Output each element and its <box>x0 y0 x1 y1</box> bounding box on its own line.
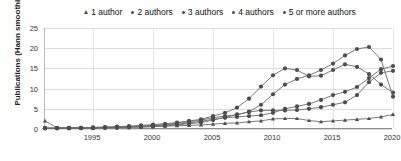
data-point-circle <box>55 126 59 130</box>
y-tick-label: 20 <box>22 44 38 53</box>
data-point-circle <box>391 69 395 73</box>
data-point-circle <box>331 103 335 107</box>
data-point-circle <box>43 126 47 130</box>
data-point-circle <box>331 61 335 65</box>
legend-item-2[interactable]: 3 authors <box>182 8 223 17</box>
legend-item-4[interactable]: 5 or more authors <box>283 8 356 17</box>
y-tick-label: 0 <box>22 125 38 134</box>
data-point-circle <box>331 93 335 97</box>
data-point-circle <box>223 115 227 119</box>
data-point-circle <box>355 47 359 51</box>
data-point-circle <box>271 108 275 112</box>
data-point-circle <box>127 125 131 129</box>
legend-item-1[interactable]: 2 authors <box>131 8 172 17</box>
x-tick-label: 2010 <box>255 133 289 142</box>
series-line <box>45 47 393 128</box>
data-point-circle <box>391 64 395 68</box>
circle-marker-icon <box>131 11 134 14</box>
legend-item-0[interactable]: 1 author <box>84 8 122 17</box>
data-point-circle <box>163 124 167 128</box>
y-tick-label: 10 <box>22 85 38 94</box>
data-point-circle <box>259 103 263 107</box>
x-tick-label: 2005 <box>195 133 229 142</box>
data-point-circle <box>295 77 299 81</box>
data-point-circle <box>235 112 239 116</box>
data-point-circle <box>271 73 275 77</box>
data-point-circle <box>379 82 383 86</box>
data-point-circle <box>307 102 311 106</box>
y-axis-title: Publications (Hann smoothing) <box>13 0 22 109</box>
data-point-circle <box>319 105 323 109</box>
y-tick-label: 25 <box>22 24 38 33</box>
data-point-circle <box>355 65 359 69</box>
data-point-circle <box>139 125 143 129</box>
circle-marker-icon <box>182 11 185 14</box>
data-point-circle <box>367 76 371 80</box>
series-line <box>45 71 393 128</box>
series-2 <box>43 45 395 130</box>
data-point-circle <box>247 97 251 101</box>
data-point-circle <box>283 66 287 70</box>
data-point-circle <box>247 110 251 114</box>
legend-label: 3 authors <box>188 8 223 17</box>
data-point-circle <box>259 113 263 117</box>
data-point-circle <box>91 126 95 130</box>
plot-inner <box>45 28 392 128</box>
data-point-circle <box>319 74 323 78</box>
data-point-triangle <box>43 119 47 123</box>
data-point-circle <box>259 84 263 88</box>
data-point-circle <box>391 95 395 99</box>
data-point-circle <box>319 68 323 72</box>
data-point-circle <box>211 118 215 122</box>
data-point-circle <box>307 107 311 111</box>
data-point-circle <box>271 92 275 96</box>
data-point-circle <box>355 93 359 97</box>
plot-area <box>44 28 392 129</box>
legend-label: 4 authors <box>238 8 273 17</box>
data-point-circle <box>367 72 371 76</box>
data-point-circle <box>355 85 359 89</box>
data-point-circle <box>367 45 371 49</box>
data-point-circle <box>343 62 347 66</box>
data-point-circle <box>343 53 347 57</box>
data-point-circle <box>343 90 347 94</box>
data-point-circle <box>379 57 383 61</box>
data-point-circle <box>283 108 287 112</box>
data-point-circle <box>235 105 239 109</box>
x-tick-label: 1995 <box>75 133 109 142</box>
data-point-circle <box>283 82 287 86</box>
data-point-circle <box>259 108 263 112</box>
data-point-circle <box>295 68 299 72</box>
data-point-circle <box>151 124 155 128</box>
legend-item-3[interactable]: 4 authors <box>232 8 273 17</box>
data-point-circle <box>199 120 203 124</box>
series-4 <box>43 69 395 131</box>
data-point-circle <box>103 126 107 130</box>
y-tick-label: 5 <box>22 105 38 114</box>
data-point-circle <box>67 126 71 130</box>
data-point-circle <box>319 98 323 102</box>
x-tick-label: 2020 <box>375 133 401 142</box>
circle-marker-icon <box>283 11 286 14</box>
circle-marker-icon <box>232 11 235 14</box>
data-point-circle <box>295 108 299 112</box>
data-point-triangle <box>391 112 395 116</box>
data-point-circle <box>379 71 383 75</box>
legend-label: 5 or more authors <box>289 8 356 17</box>
triangle-marker-icon <box>84 10 88 14</box>
legend-label: 2 authors <box>137 8 172 17</box>
data-point-circle <box>247 114 251 118</box>
y-tick-label: 15 <box>22 64 38 73</box>
data-point-circle <box>115 126 119 130</box>
chart-root: 1 author2 authors3 authors4 authors5 or … <box>0 0 401 161</box>
data-point-circle <box>331 68 335 72</box>
x-tick-label: 2015 <box>315 133 349 142</box>
data-point-circle <box>175 123 179 127</box>
data-point-circle <box>295 104 299 108</box>
data-point-circle <box>187 122 191 126</box>
y-gridline <box>45 129 392 130</box>
data-point-circle <box>79 126 83 130</box>
data-point-circle <box>343 100 347 104</box>
chart-legend: 1 author2 authors3 authors4 authors5 or … <box>44 5 396 19</box>
data-point-circle <box>367 80 371 84</box>
